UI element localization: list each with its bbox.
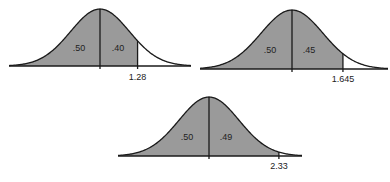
shaded-area [9,9,138,66]
cutoff-z-label: 1.28 [129,72,147,82]
normal-curve-1-645: .50.451.645 [200,10,388,84]
shaded-area [200,10,343,69]
cutoff-z-label: 1.645 [332,74,355,84]
right-area-label: .40 [112,43,125,53]
shaded-area [118,97,279,156]
normal-curve-2-33: .50.492.33 [118,97,302,171]
right-area-label: .49 [220,132,233,142]
normal-curves-diagram: .50.401.28 .50.451.645 .50.492.33 [0,0,390,182]
cutoff-z-label: 2.33 [270,161,288,171]
left-area-label: .50 [73,43,86,53]
left-area-label: .50 [264,45,277,55]
left-area-label: .50 [181,132,194,142]
right-area-label: .45 [303,45,316,55]
normal-curve-1-28: .50.401.28 [9,9,191,82]
